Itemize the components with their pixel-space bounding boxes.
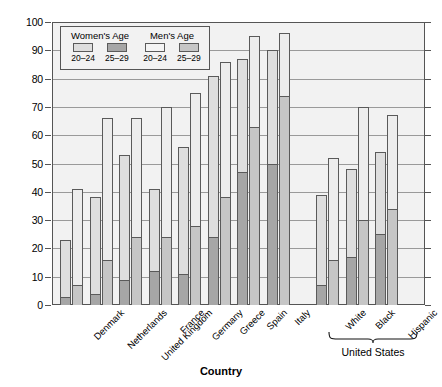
legend-swatch-women-20-24-icon bbox=[73, 43, 93, 52]
legend-label-women-20-24: 20–24 bbox=[71, 53, 95, 63]
y-tick-mark bbox=[45, 248, 51, 249]
bar-women bbox=[375, 152, 386, 305]
bar-segment-25-29 bbox=[209, 77, 218, 237]
bar-segment-20-24 bbox=[209, 237, 218, 305]
y-tick-label: 50 bbox=[13, 158, 43, 170]
y-tick-mark bbox=[45, 79, 51, 80]
bar-segment-20-24 bbox=[376, 234, 385, 305]
y-tick-mark bbox=[45, 22, 51, 23]
y-tick-label: 20 bbox=[13, 242, 43, 254]
bar-segment-20-24 bbox=[329, 260, 338, 305]
y-tick-mark bbox=[45, 135, 51, 136]
bar-segment-25-29 bbox=[73, 190, 82, 285]
legend-men-title: Men's Age bbox=[137, 30, 207, 41]
bar-men bbox=[161, 107, 172, 305]
bar-women bbox=[316, 195, 327, 305]
legend-item-men-25-29: 25–29 bbox=[177, 43, 201, 63]
y-tick-label: 40 bbox=[13, 186, 43, 198]
bar-segment-20-24 bbox=[162, 237, 171, 305]
bar-segment-25-29 bbox=[132, 119, 141, 237]
bar-men bbox=[279, 33, 290, 305]
bar-segment-20-24 bbox=[359, 220, 368, 305]
bar-women bbox=[149, 189, 160, 305]
y-tick-mark-right bbox=[425, 192, 431, 193]
bar-segment-20-24 bbox=[132, 237, 141, 305]
bar-men bbox=[328, 158, 339, 305]
bar-chart: 0102030405060708090100 Percent Women's A… bbox=[0, 0, 442, 387]
y-tick-mark-right bbox=[425, 135, 431, 136]
bar-men bbox=[190, 93, 201, 305]
bar-segment-20-24 bbox=[268, 164, 277, 306]
bar-segment-25-29 bbox=[280, 34, 289, 95]
x-tick-label: Denmark bbox=[91, 307, 126, 342]
y-tick-label: 10 bbox=[13, 271, 43, 283]
united-states-brace-icon bbox=[328, 331, 418, 344]
bar-women bbox=[267, 50, 278, 305]
bar-group bbox=[267, 22, 290, 305]
bar-segment-25-29 bbox=[162, 108, 171, 237]
y-tick-mark-right bbox=[425, 305, 431, 306]
bar-segment-25-29 bbox=[388, 116, 397, 208]
legend-swatch-men-20-24-icon bbox=[145, 43, 165, 52]
bar-segment-25-29 bbox=[150, 190, 159, 271]
x-tick-label: Spain bbox=[264, 307, 289, 332]
bar-group bbox=[375, 22, 398, 305]
legend-swatch-men-25-29-icon bbox=[179, 43, 199, 52]
bar-group bbox=[208, 22, 231, 305]
bar-segment-25-29 bbox=[359, 108, 368, 220]
bar-segment-25-29 bbox=[329, 159, 338, 260]
bar-segment-25-29 bbox=[103, 119, 112, 260]
y-tick-label: 100 bbox=[13, 16, 43, 28]
legend-item-women-25-29: 25–29 bbox=[105, 43, 129, 63]
bar-men bbox=[387, 115, 398, 305]
bar-segment-25-29 bbox=[250, 37, 259, 127]
bar-segment-25-29 bbox=[347, 170, 356, 257]
bar-men bbox=[131, 118, 142, 305]
y-tick-label: 30 bbox=[13, 214, 43, 226]
bar-women bbox=[60, 240, 71, 305]
bar-segment-20-24 bbox=[317, 285, 326, 305]
y-tick-mark-right bbox=[425, 50, 431, 51]
bar-segment-25-29 bbox=[120, 156, 129, 280]
y-tick-mark-right bbox=[425, 248, 431, 249]
bar-segment-25-29 bbox=[61, 241, 70, 297]
bar-segment-25-29 bbox=[179, 148, 188, 274]
bar-segment-25-29 bbox=[91, 198, 100, 293]
legend-group-men: Men's Age 20–24 25–29 bbox=[137, 30, 207, 63]
y-tick-mark-right bbox=[425, 164, 431, 165]
y-tick-mark bbox=[45, 164, 51, 165]
united-states-group-label: United States bbox=[318, 346, 428, 358]
y-tick-mark-right bbox=[425, 277, 431, 278]
bar-women bbox=[90, 197, 101, 305]
bar-segment-25-29 bbox=[376, 153, 385, 234]
y-tick-label: 60 bbox=[13, 129, 43, 141]
bar-segment-25-29 bbox=[221, 63, 230, 198]
bar-group bbox=[237, 22, 260, 305]
legend-label-men-20-24: 20–24 bbox=[143, 53, 167, 63]
y-tick-mark-right bbox=[425, 22, 431, 23]
y-tick-label: 0 bbox=[13, 299, 43, 311]
bar-segment-25-29 bbox=[191, 94, 200, 226]
legend-group-women: Women's Age 20–24 25–29 bbox=[64, 30, 136, 63]
bar-group bbox=[316, 22, 339, 305]
bar-women bbox=[208, 76, 219, 305]
y-tick-mark bbox=[45, 107, 51, 108]
x-tick-label: Black bbox=[372, 307, 396, 331]
legend-women-title: Women's Age bbox=[64, 30, 136, 41]
y-tick-label: 80 bbox=[13, 73, 43, 85]
y-axis: 0102030405060708090100 bbox=[0, 0, 52, 307]
bar-segment-20-24 bbox=[73, 285, 82, 305]
legend-item-women-20-24: 20–24 bbox=[71, 43, 95, 63]
legend-label-men-25-29: 25–29 bbox=[177, 53, 201, 63]
bar-women bbox=[178, 147, 189, 305]
bar-segment-20-24 bbox=[238, 172, 247, 305]
bar-men bbox=[249, 36, 260, 305]
y-tick-mark-right bbox=[425, 79, 431, 80]
bar-men bbox=[358, 107, 369, 305]
chart-legend: Women's Age 20–24 25–29 Men's Age 20–24 bbox=[60, 26, 210, 70]
y-tick-label: 90 bbox=[13, 44, 43, 56]
bar-men bbox=[72, 189, 83, 305]
bar-segment-20-24 bbox=[91, 294, 100, 305]
y-tick-mark bbox=[45, 50, 51, 51]
y-tick-mark-right bbox=[425, 107, 431, 108]
